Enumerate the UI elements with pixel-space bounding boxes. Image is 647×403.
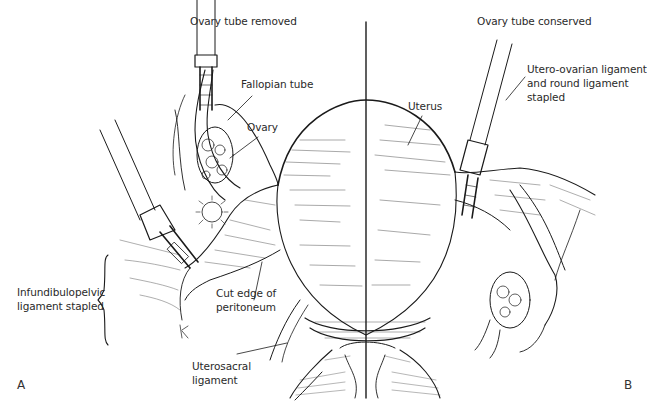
panel-b-letter: B (624, 378, 632, 392)
label-uterosacral-line2: ligament (192, 374, 238, 387)
panel-a-letter: A (17, 378, 25, 392)
label-utero-ovarian-line3: stapled (527, 91, 565, 104)
label-infundibulopelvic-line2: ligament stapled (17, 300, 104, 313)
label-utero-ovarian-line1: Utero-ovarian ligament (527, 63, 647, 76)
label-fallopian-tube: Fallopian tube (241, 78, 313, 91)
label-cut-edge-line1: Cut edge of (216, 287, 276, 300)
label-cut-edge-line2: peritoneum (216, 301, 276, 314)
panel-a-title: Ovary tube removed (190, 15, 297, 28)
label-uterosacral-line1: Uterosacral (192, 360, 251, 373)
panel-b-title: Ovary tube conserved (477, 15, 591, 28)
label-utero-ovarian-line2: and round ligament (527, 77, 629, 90)
label-ovary: Ovary (247, 121, 278, 134)
label-uterus: Uterus (408, 100, 442, 113)
label-infundibulopelvic-line1: Infundibulopelvic (17, 286, 105, 299)
